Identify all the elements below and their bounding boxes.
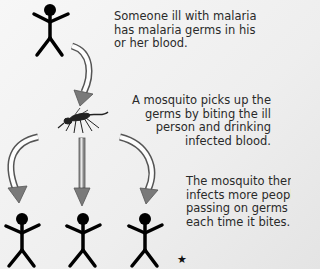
target-person-figure — [129, 213, 162, 266]
arrow-to-left-person — [8, 137, 38, 203]
arrow-to-mosquito — [72, 46, 93, 106]
step-3-caption: The mosquito then infects more people, p… — [186, 175, 291, 229]
star-icon: ★ — [177, 254, 187, 265]
step-2-caption: A mosquito picks up the germs by biting … — [132, 94, 271, 148]
infected-person-figure — [34, 4, 68, 55]
mosquito-icon — [58, 108, 108, 133]
malaria-transmission-diagram: Someone ill with malaria has malaria ger… — [0, 0, 291, 269]
arrow-to-middle-person — [74, 138, 90, 206]
target-person-figure — [6, 213, 39, 266]
step-1-caption: Someone ill with malaria has malaria ger… — [114, 10, 256, 51]
target-person-figure — [67, 213, 100, 266]
